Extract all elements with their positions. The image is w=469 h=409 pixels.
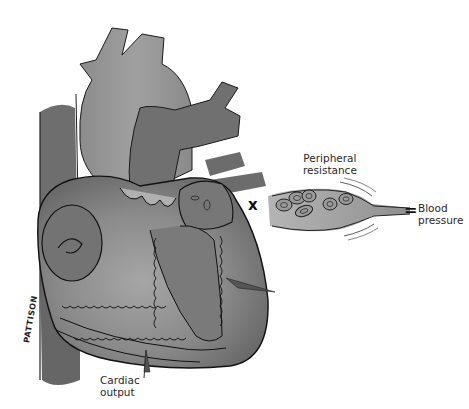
peripheral-resistance-line1: Peripheral: [303, 152, 357, 164]
blood-pressure-line2: pressure: [418, 214, 463, 226]
peripheral-resistance-label: Peripheral resistance: [303, 152, 357, 176]
blood-pressure-line1: Blood: [418, 202, 463, 214]
peripheral-resistance-line2: resistance: [303, 164, 357, 176]
blood-vessel: [268, 178, 410, 240]
heart-illustration: [0, 0, 469, 409]
cardiac-output-line2: output: [100, 386, 140, 398]
cardiac-output-line1: Cardiac: [100, 374, 140, 386]
equals-operator: =: [404, 200, 417, 219]
multiply-operator: x: [248, 196, 258, 214]
blood-pressure-label: Blood pressure: [418, 202, 463, 226]
heart-body: [38, 176, 268, 368]
cardiac-output-label: Cardiac output: [100, 374, 140, 398]
